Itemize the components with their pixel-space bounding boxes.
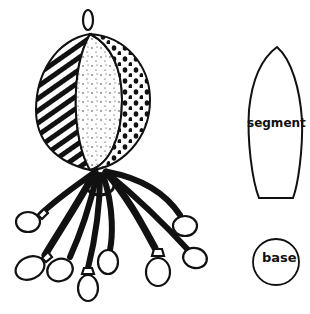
ball-toy-illustration bbox=[0, 0, 310, 314]
segment-label: segment bbox=[247, 116, 306, 130]
ball bbox=[36, 34, 150, 170]
base-label: base bbox=[262, 250, 297, 265]
hanging-loop bbox=[83, 10, 93, 30]
